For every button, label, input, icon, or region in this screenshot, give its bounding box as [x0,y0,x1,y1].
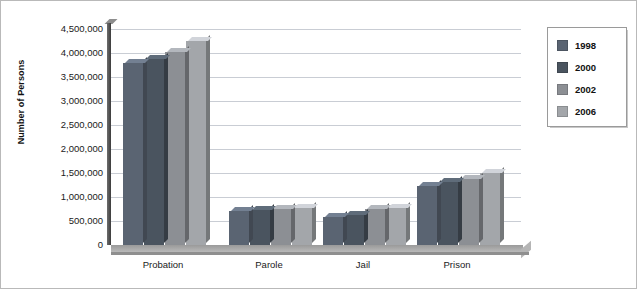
y-axis-tick-label: 3,000,000 [35,96,103,106]
bar-face [186,41,206,245]
bar[interactable] [323,217,343,245]
legend-swatch [557,106,568,117]
bar[interactable] [438,182,458,245]
bar[interactable] [123,63,143,245]
x-axis-label-jail: Jail [318,259,408,270]
bar-group-jail [323,29,421,245]
legend-item-2002[interactable]: 2002 [557,83,596,95]
bar-face [417,186,437,245]
bar-side [206,35,210,243]
bar-side [249,205,253,243]
bar[interactable] [165,52,185,245]
chart-floor-front-edge [111,252,529,255]
y-axis-title: Number of Persons [16,22,26,182]
x-axis-label-parole: Parole [224,259,314,270]
bar-face [344,215,364,245]
bar[interactable] [344,215,364,245]
y-axis-tick-label: 3,500,000 [35,72,103,82]
bar-side [291,203,295,243]
bar-side [270,204,274,243]
bar-side [185,46,189,243]
y-axis-tick-label: 500,000 [35,216,103,226]
chart-floor-side [521,241,531,258]
bar[interactable] [480,173,500,245]
y-axis-tick-label: 4,000,000 [35,48,103,58]
bar-face [271,209,291,245]
bar[interactable] [417,186,437,245]
bar-group-prison [417,29,515,245]
bar-face [323,217,343,245]
y-axis-tick-label: 4,500,000 [35,24,103,34]
y-axis-tick-label: 1,500,000 [35,168,103,178]
bar[interactable] [186,41,206,245]
bar[interactable] [271,209,291,245]
bar-face [365,209,385,245]
bar-face [292,208,312,245]
bar[interactable] [459,179,479,245]
bar[interactable] [292,208,312,245]
bar-side [143,57,147,243]
legend-item-1998[interactable]: 1998 [557,39,596,51]
y-axis-tick-label: 1,000,000 [35,192,103,202]
legend-item-2000[interactable]: 2000 [557,61,596,73]
legend-swatch [557,40,568,51]
bar-face [123,63,143,245]
y-axis-tick-label: 0 [35,240,103,250]
bar-side [500,167,504,243]
bar[interactable] [229,211,249,245]
x-axis-category-labels: ProbationParoleJailPrison [111,259,531,275]
bar-face [386,208,406,245]
bar[interactable] [144,59,164,245]
bar-side [437,180,441,243]
bar-side [385,203,389,243]
bar-face [459,179,479,245]
bar-group-probation [123,29,221,245]
chart-legend: 1998200020022006 [547,27,627,127]
chart-frame: Number of Persons 4,500,0004,000,0003,50… [0,0,637,289]
bar-face [438,182,458,245]
legend-label: 2006 [575,106,596,117]
bar[interactable] [250,210,270,245]
legend-label: 1998 [575,40,596,51]
bar-face [250,210,270,245]
bar-side [406,202,410,243]
bar-face [165,52,185,245]
bar-face [480,173,500,245]
legend-label: 2000 [575,62,596,73]
x-axis-label-prison: Prison [412,259,502,270]
bar[interactable] [365,209,385,245]
bar-face [144,59,164,245]
bar-side [479,173,483,243]
bar-side [458,176,462,243]
legend-item-2006[interactable]: 2006 [557,105,596,117]
legend-label: 2002 [575,84,596,95]
bar-face [229,211,249,245]
bar-group-parole [229,29,327,245]
y-axis-tick-label: 2,000,000 [35,144,103,154]
x-axis-label-probation: Probation [118,259,208,270]
bar[interactable] [386,208,406,245]
y-axis-tick-label: 2,500,000 [35,120,103,130]
legend-swatch [557,84,568,95]
legend-swatch [557,62,568,73]
bar-side [164,53,168,243]
y-axis-tick-labels: 4,500,0004,000,0003,500,0003,000,0002,50… [35,1,103,290]
plot-area [111,29,521,245]
